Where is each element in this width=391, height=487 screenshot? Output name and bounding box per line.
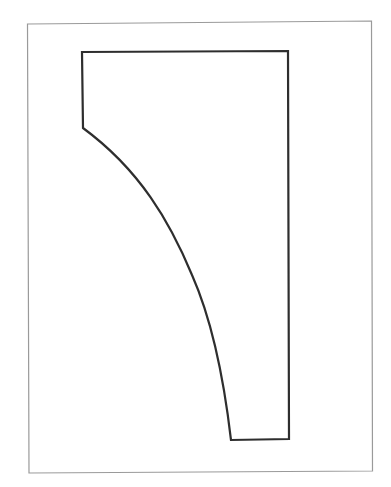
template-diagram xyxy=(0,0,391,487)
